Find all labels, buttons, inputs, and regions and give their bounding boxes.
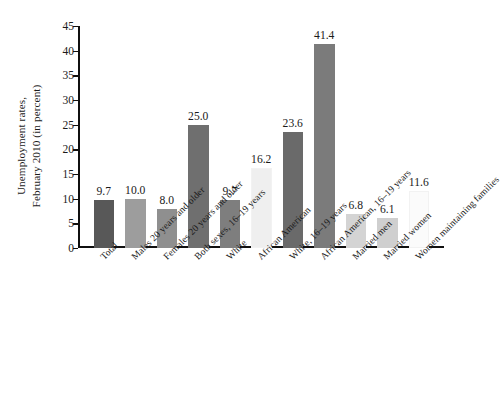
y-tick-label: 20 (63, 141, 75, 157)
bar-value-label: 41.4 (314, 29, 334, 42)
bar-slot[interactable]: 16.2 (246, 26, 278, 248)
y-tick-label: 30 (63, 92, 75, 108)
bar[interactable] (251, 168, 272, 248)
y-tick-label: 15 (63, 166, 75, 182)
y-tick-label: 10 (63, 191, 75, 207)
y-axis-title-line-1: Unemployment rates, (14, 48, 29, 244)
bar-slot[interactable]: 9.7 (88, 26, 120, 248)
bar-value-label: 10.0 (125, 184, 145, 197)
bar-value-label: 16.2 (251, 153, 271, 166)
y-tick-label: 5 (68, 215, 74, 231)
y-tick-label: 25 (63, 117, 75, 133)
y-axis-title: Unemployment rates, February 2010 (in pe… (14, 48, 48, 244)
bar-series: 9.710.08.025.09.716.223.641.46.86.111.6 (78, 26, 444, 248)
y-tick-label: 40 (63, 43, 75, 59)
bar-slot[interactable]: 10.0 (120, 26, 152, 248)
y-tick-label: 45 (63, 18, 75, 34)
bar-value-label: 8.0 (160, 194, 175, 207)
bar-value-label: 25.0 (188, 110, 208, 123)
y-tick-label: 35 (63, 67, 75, 83)
bar-value-label: 23.6 (283, 117, 303, 130)
plot-area: 051015202530354045 9.710.08.025.09.716.2… (78, 26, 444, 248)
y-axis-title-line-2: February 2010 (in percent) (29, 48, 44, 244)
bar-value-label: 9.7 (97, 185, 112, 198)
bar-slot[interactable]: 6.1 (372, 26, 404, 248)
bar-value-label: 11.6 (409, 176, 429, 189)
y-tick-label: 0 (68, 240, 74, 256)
